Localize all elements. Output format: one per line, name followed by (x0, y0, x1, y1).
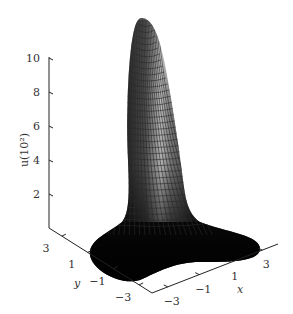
surface-plot: 246810 31−1−3 −3−113 u(10²) y x (0, 0, 293, 314)
y-tick (62, 234, 66, 236)
z-tick-label: 6 (33, 120, 40, 133)
z-tick-label: 2 (33, 188, 40, 201)
y-tick-label: 1 (68, 258, 75, 271)
y-tick (139, 283, 143, 285)
surface (80, 15, 270, 290)
x-tick (195, 273, 199, 275)
x-tick-label: −1 (195, 283, 211, 296)
y-tick-label: −3 (115, 291, 131, 304)
z-tick (49, 92, 53, 94)
x-tick-label: −3 (164, 295, 180, 308)
x-tick-label: 1 (231, 270, 238, 283)
z-tick (49, 160, 53, 162)
z-tick (49, 194, 53, 196)
x-tick-label: 3 (263, 258, 270, 271)
x-tick (164, 285, 168, 287)
z-tick-label: 8 (33, 86, 40, 99)
y-tick-label: −1 (89, 275, 105, 288)
z-axis-label: u(10²) (18, 133, 31, 167)
z-tick (49, 58, 53, 60)
z-tick-label: 4 (33, 154, 40, 167)
z-tick (49, 126, 53, 128)
y-tick-label: 3 (42, 242, 49, 255)
x-axis-label: x (237, 283, 244, 296)
y-axis-label: y (73, 277, 81, 290)
z-tick-label: 10 (26, 52, 40, 65)
